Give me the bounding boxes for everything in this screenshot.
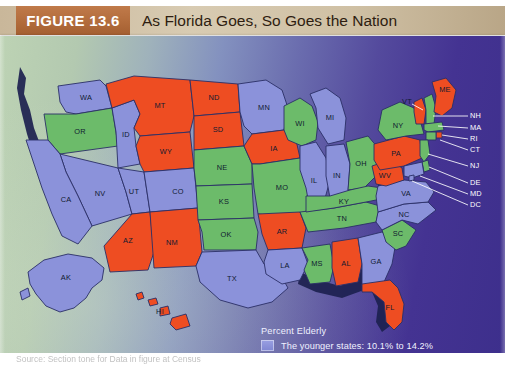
callout-MA: MA (470, 123, 482, 132)
label-FL: FL (385, 303, 394, 312)
legend-title: Percent Elderly (261, 326, 491, 336)
us-map-svg: WA OR ID MT WY NV UT CA CO AZ NM ND SD N… (0, 36, 505, 353)
figure-footer: Source: Section tone for Data in figure … (0, 353, 505, 371)
label-AK: AK (61, 273, 71, 282)
state-MA[interactable] (424, 122, 444, 132)
label-NV: NV (95, 189, 106, 198)
label-MS: MS (311, 259, 323, 268)
state-DC[interactable] (409, 175, 414, 181)
choropleth-map: WA OR ID MT WY NV UT CA CO AZ NM ND SD N… (0, 36, 505, 353)
label-AL: AL (341, 259, 350, 268)
label-TX: TX (227, 274, 237, 283)
map-legend: Percent Elderly The younger states: 10.1… (261, 326, 491, 353)
callout-RI: RI (470, 134, 478, 143)
label-UT: UT (129, 187, 140, 196)
label-PA: PA (391, 149, 401, 158)
label-SD: SD (213, 125, 224, 134)
legend-swatch-younger (261, 340, 274, 351)
state-NJ[interactable] (420, 140, 430, 162)
label-NM: NM (166, 238, 178, 247)
callout-DE: DE (470, 178, 481, 187)
label-MN: MN (258, 103, 270, 112)
source-note: Source: Section tone for Data in figure … (16, 354, 201, 364)
label-AZ: AZ (123, 236, 133, 245)
legend-label-younger: The younger states: 10.1% to 14.2% (281, 341, 433, 351)
callout-CT: CT (470, 145, 481, 154)
label-IA: IA (270, 144, 277, 153)
callout-NJ: NJ (470, 161, 480, 170)
callout-DC: DC (470, 200, 482, 209)
figure-title: As Florida Goes, So Goes the Nation (142, 6, 397, 35)
label-MI: MI (326, 113, 335, 122)
map-right-edge-highlight (500, 36, 505, 353)
label-CO: CO (172, 187, 184, 196)
legend-item-younger: The younger states: 10.1% to 14.2% (261, 340, 491, 351)
label-CA: CA (61, 195, 72, 204)
label-VA: VA (401, 189, 411, 198)
label-WI: WI (295, 119, 304, 128)
label-OK: OK (220, 230, 231, 239)
label-KS: KS (219, 197, 229, 206)
label-NY: NY (393, 121, 404, 130)
map-left-edge-highlight (0, 36, 5, 353)
callout-MD: MD (470, 189, 482, 198)
label-OR: OR (74, 127, 86, 136)
state-CT[interactable] (426, 132, 436, 140)
label-OH: OH (355, 159, 367, 168)
label-MO: MO (276, 183, 288, 192)
label-SC: SC (393, 229, 404, 238)
label-LA: LA (280, 261, 289, 270)
label-WV: WV (379, 171, 391, 180)
label-NE: NE (217, 163, 228, 172)
state-AK[interactable] (20, 254, 104, 312)
label-IL: IL (311, 176, 318, 185)
state-CO[interactable] (144, 168, 198, 212)
label-GA: GA (370, 257, 381, 266)
label-WY: WY (160, 147, 172, 156)
figure-container: FIGURE 13.6 As Florida Goes, So Goes the… (0, 0, 505, 371)
label-ID: ID (122, 130, 130, 139)
label-MT: MT (154, 101, 165, 110)
label-NC: NC (398, 210, 410, 219)
callout-NH: NH (470, 111, 481, 120)
label-KY: KY (339, 197, 349, 206)
label-AR: AR (277, 227, 288, 236)
state-RI[interactable] (436, 132, 442, 138)
label-TN: TN (337, 214, 347, 223)
label-VT: VT (402, 97, 412, 106)
label-ND: ND (208, 93, 219, 102)
label-WA: WA (80, 93, 92, 102)
state-ME[interactable] (432, 78, 456, 116)
label-IN: IN (333, 171, 341, 180)
label-ME: ME (439, 85, 451, 94)
figure-number-tab: FIGURE 13.6 (16, 6, 130, 35)
label-HI: HI (156, 307, 164, 316)
